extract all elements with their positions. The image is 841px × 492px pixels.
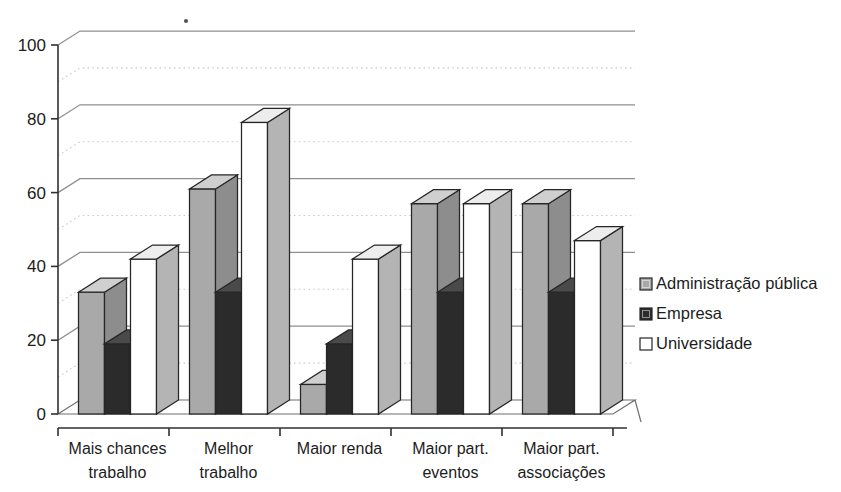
category-label-3-line0: Maior part. bbox=[412, 440, 488, 457]
bar-chart-figure: 020406080100 Mais chancestrabalhoMelhort… bbox=[0, 0, 841, 492]
y-tick-label-100: 100 bbox=[18, 36, 46, 55]
y-tick-label-80: 80 bbox=[27, 110, 46, 129]
category-label-1-line1: trabalho bbox=[200, 464, 258, 481]
y-tick-label-40: 40 bbox=[27, 257, 46, 276]
category-label-3-line1: eventos bbox=[422, 464, 478, 481]
category-label-0-line0: Mais chances bbox=[69, 440, 167, 457]
y-tick-label-60: 60 bbox=[27, 184, 46, 203]
category-label-4-line0: Maior part. bbox=[523, 440, 599, 457]
legend-label-2: Universidade bbox=[656, 334, 752, 352]
bar-0-2 bbox=[131, 245, 179, 414]
legend-item-0[interactable]: Administração pública bbox=[640, 274, 818, 292]
category-label-1-line0: Melhor bbox=[204, 440, 254, 457]
scan-speck-artifact bbox=[184, 19, 188, 23]
legend-swatch-1 bbox=[640, 308, 652, 320]
legend-label-1: Empresa bbox=[656, 304, 723, 322]
chart-canvas: 020406080100 Mais chancestrabalhoMelhort… bbox=[0, 0, 841, 492]
legend-swatch-2 bbox=[640, 338, 652, 350]
legend-label-0: Administração pública bbox=[656, 274, 818, 292]
category-label-4-line1: associações bbox=[517, 464, 605, 481]
category-label-0-line1: trabalho bbox=[89, 464, 147, 481]
y-tick-label-0: 0 bbox=[37, 405, 46, 424]
bar-4-2 bbox=[575, 227, 623, 414]
y-tick-label-20: 20 bbox=[27, 331, 46, 350]
bar-3-2 bbox=[464, 190, 512, 414]
bar-1-2 bbox=[242, 108, 290, 414]
legend-swatch-0 bbox=[640, 278, 652, 290]
legend-item-2[interactable]: Universidade bbox=[640, 334, 752, 352]
category-label-2-line0: Maior renda bbox=[297, 440, 382, 457]
bar-2-2 bbox=[353, 245, 401, 414]
